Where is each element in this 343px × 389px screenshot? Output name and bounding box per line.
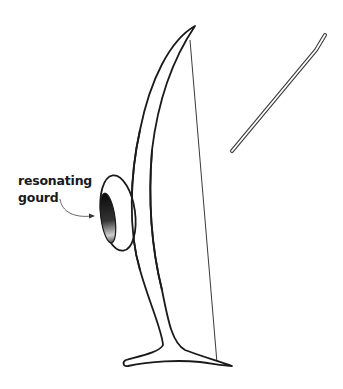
gourd-label-line-2: gourd: [18, 190, 59, 206]
arrowhead-icon: [89, 214, 95, 219]
bow-stave: [124, 26, 232, 366]
label-pointer-arrow: [60, 199, 92, 216]
diagram-canvas: resonating gourd: [0, 0, 343, 389]
bow-string: [190, 40, 217, 363]
gourd-label-line-1: resonating: [18, 173, 92, 189]
